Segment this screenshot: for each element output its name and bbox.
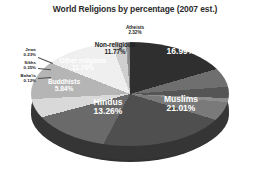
slice-percent-catholics: 16.99% — [150, 47, 212, 56]
slice-label-other-christians: other Christians 5.77% — [178, 78, 260, 87]
slice-label-muslims: Muslims 21.01% — [150, 95, 212, 113]
slice-label-atheists: Atheists 2.32% — [112, 26, 158, 36]
slice-percent-bahais: 0.12% — [2, 79, 36, 84]
slice-label-protestants: Protestants 5.78% — [178, 56, 260, 61]
slice-text-protestants: Protestants 5.78% — [178, 56, 260, 61]
slice-percent-buddhists: 5.84% — [36, 85, 92, 92]
slice-percent-other-religions: 11.78% — [52, 64, 114, 71]
slice-percent-muslims: 21.01% — [150, 104, 212, 113]
slice-label-jews: Jews 0.23% — [2, 48, 36, 58]
slice-label-hindus: Hindus 13.26% — [79, 98, 137, 116]
slice-percent-sikhs: 0.35% — [2, 66, 36, 71]
slice-label-buddhists: Buddhists 5.84% — [36, 78, 92, 92]
slice-label-non-religious: Non-religious 11.77% — [84, 42, 146, 56]
slice-percent-non-religious: 11.77% — [84, 49, 146, 56]
slice-name-buddhists: Buddhists — [36, 78, 92, 85]
pie-chart-graphic: Catholics 16.99% Muslims 21.01% Hindus 1… — [0, 16, 270, 169]
slice-text-anglican: Anglican 1.25% — [178, 72, 260, 76]
slice-label-anglican: Anglican 1.25% — [178, 72, 260, 76]
pie-chart-figure: World Religions by percentage (2007 est.… — [0, 0, 270, 169]
slice-label-sikhs: Sikhs 0.35% — [2, 61, 36, 71]
slice-percent-hindus: 13.26% — [79, 107, 137, 116]
slice-percent-atheists: 2.32% — [112, 31, 158, 36]
slice-text-orthodox: Orthodox 3.53% — [178, 64, 260, 69]
chart-title: World Religions by percentage (2007 est.… — [0, 4, 270, 14]
slice-name-other-religions: Other religions — [52, 57, 114, 64]
slice-label-other-religions: Other religions 11.78% — [52, 57, 114, 71]
slice-percent-other-christians: 5.77% — [178, 82, 260, 86]
slice-label-catholics: Catholics 16.99% — [150, 38, 212, 56]
slice-percent-jews: 0.23% — [2, 53, 36, 58]
slice-label-bahais: Baha'is 0.12% — [2, 74, 36, 84]
slice-label-orthodox: Orthodox 3.53% — [178, 64, 260, 69]
